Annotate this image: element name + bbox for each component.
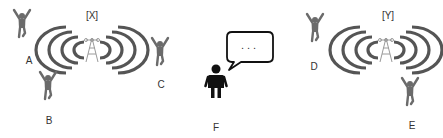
speech-bubble-text: ... <box>241 39 259 51</box>
speech-bubble-icon <box>0 0 443 138</box>
speaker-f-label: F <box>213 122 219 133</box>
